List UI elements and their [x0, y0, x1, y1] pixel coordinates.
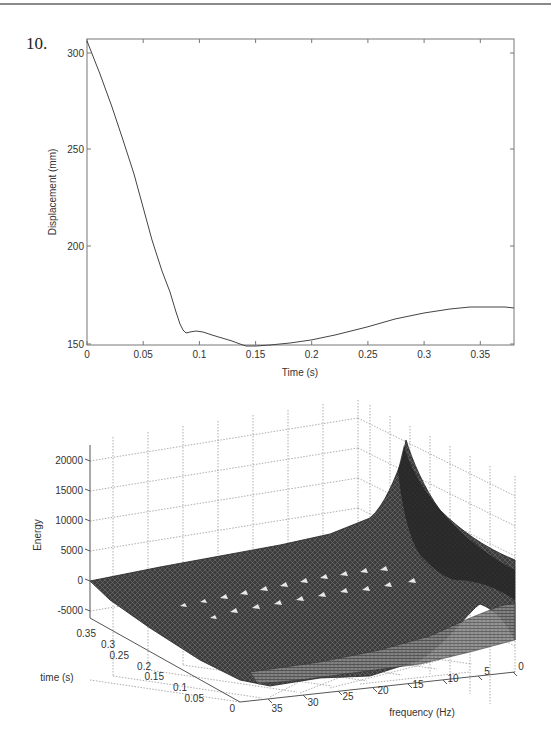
svg-text:5: 5 [484, 666, 490, 677]
svg-text:20000: 20000 [55, 455, 83, 466]
svg-text:10000: 10000 [55, 515, 83, 526]
z-axis-label: Energy [32, 519, 43, 551]
z-tick-labels: 20000 15000 10000 5000 0 -5000 [55, 455, 83, 616]
svg-text:0.25: 0.25 [110, 650, 130, 661]
svg-text:0.35: 0.35 [77, 628, 97, 639]
freq-axis-label: frequency (Hz) [389, 707, 455, 718]
svg-text:0: 0 [77, 575, 83, 586]
svg-text:15000: 15000 [55, 485, 83, 496]
svg-text:0.15: 0.15 [145, 671, 165, 682]
svg-text:20: 20 [377, 685, 389, 696]
svg-text:0: 0 [229, 703, 235, 714]
z-ticks [85, 459, 90, 611]
svg-text:5000: 5000 [61, 545, 84, 556]
time-axis-label: time (s) [40, 672, 73, 683]
svg-text:0.05: 0.05 [185, 693, 205, 704]
energy-surface-chart: 20000 15000 10000 5000 0 -5000 Energy 0.… [0, 0, 551, 739]
svg-text:35: 35 [271, 703, 283, 714]
svg-text:10: 10 [447, 673, 459, 684]
svg-text:25: 25 [342, 691, 354, 702]
svg-text:15: 15 [412, 679, 424, 690]
svg-text:0.1: 0.1 [173, 682, 187, 693]
svg-text:0.3: 0.3 [101, 639, 115, 650]
svg-text:-5000: -5000 [57, 605, 83, 616]
svg-text:0: 0 [518, 661, 524, 672]
svg-text:30: 30 [307, 697, 319, 708]
